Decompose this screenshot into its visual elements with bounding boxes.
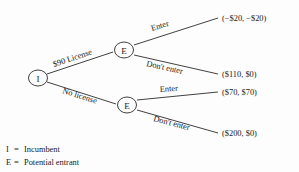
payoff-label-2: ($110, $0) <box>222 70 257 79</box>
legend-equals-incumbent: = <box>14 145 19 154</box>
edge-upper-enter-line <box>134 18 218 45</box>
edge-lower-enter-line <box>137 92 218 100</box>
legend-key-potential-entrant: E <box>6 158 11 167</box>
legend-equals-potential-entrant: = <box>14 158 19 167</box>
edge-label-no-license: No license <box>61 86 98 105</box>
legend-text-potential-entrant: Potential entrant <box>24 158 80 167</box>
payoff-label-4: ($200, $0) <box>222 129 257 138</box>
edge-label-lower-enter: Enter <box>160 84 179 94</box>
legend-item-incumbent: I = Incumbent <box>6 145 60 154</box>
legend-text-incumbent: Incumbent <box>24 145 60 154</box>
node-root-label: I <box>37 74 40 84</box>
edge-label-lower-dont-enter: Don't enter <box>152 114 190 132</box>
legend-key-incumbent: I <box>6 145 9 154</box>
node-lower-entrant[interactable]: E <box>118 97 137 113</box>
game-tree-diagram: I E E $90 License No license Enter Don't… <box>0 0 299 172</box>
edge-label-upper-enter: Enter <box>150 19 170 33</box>
node-lower-label: E <box>124 101 130 111</box>
node-root-incumbent[interactable]: I <box>29 70 48 86</box>
node-upper-label: E <box>121 46 127 56</box>
payoff-label-3: ($70, $70) <box>222 88 257 97</box>
legend-item-potential-entrant: E = Potential entrant <box>6 158 80 167</box>
legend: I = Incumbent E = Potential entrant <box>6 145 80 167</box>
node-upper-entrant[interactable]: E <box>115 42 134 58</box>
payoff-label-1: (−$20, −$20) <box>222 14 267 23</box>
